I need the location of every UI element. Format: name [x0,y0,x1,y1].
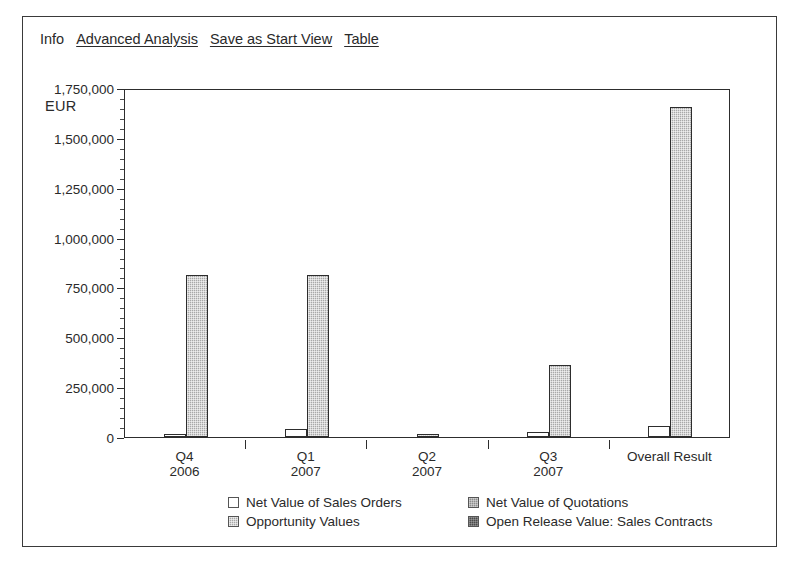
bar[interactable] [285,429,307,437]
legend-item-open-release-value-sales-contracts[interactable]: Open Release Value: Sales Contracts [468,512,728,531]
category-separator [366,440,367,449]
category-axis-label-line: Q2 [412,449,442,464]
category-axis-label: Q12007 [291,449,321,479]
y-axis-minor-tick [120,229,124,230]
plot-area [124,89,730,438]
legend-swatch-icon-darkgray [468,516,479,527]
y-axis-minor-tick [120,129,124,130]
category-axis-label: Q42006 [170,449,200,479]
y-axis-major-tick [117,338,124,339]
y-axis-minor-tick [120,408,124,409]
legend-label: Net Value of Quotations [486,495,628,510]
y-axis-minor-tick [120,328,124,329]
category-axis-label: Q22007 [412,449,442,479]
toolbar-item-info[interactable]: Info [40,31,64,47]
legend-item-opportunity-values[interactable]: Opportunity Values [228,512,460,531]
y-axis-minor-tick [120,179,124,180]
bar[interactable] [186,275,208,437]
y-axis-tick-label: 750,000 [65,281,114,296]
y-axis-unit-label: EUR [45,98,77,114]
legend-item-net-value-of-quotations[interactable]: Net Value of Quotations [468,493,728,512]
category-separator [488,440,489,449]
y-axis-minor-tick [120,308,124,309]
category-separator [245,440,246,449]
category-axis-label-line: Overall Result [627,449,712,464]
y-axis-minor-tick [120,298,124,299]
y-axis-minor-tick [120,318,124,319]
bar-group [125,275,246,437]
bar-group [367,434,488,437]
y-axis-major-tick [117,89,124,90]
y-axis-major-tick [117,438,124,439]
y-axis-minor-tick [120,418,124,419]
y-axis-tick-label: 500,000 [65,331,114,346]
y-axis-minor-tick [120,378,124,379]
y-axis-tick-label: 1,750,000 [54,82,114,97]
y-axis-minor-tick [120,398,124,399]
category-axis-label-line: Q1 [291,449,321,464]
chart-window: Info Advanced Analysis Save as Start Vie… [0,0,799,565]
y-axis-tick-label: 1,000,000 [54,231,114,246]
category-axis-label: Q32007 [533,449,563,479]
category-axis-label-line: Q3 [533,449,563,464]
y-axis-minor-tick [120,278,124,279]
y-axis-minor-tick [120,428,124,429]
category-axis-label-line: 2006 [170,464,200,479]
bar[interactable] [670,107,692,437]
y-axis-tick-label: 1,500,000 [54,131,114,146]
y-axis-minor-tick [120,249,124,250]
y-axis-major-tick [117,239,124,240]
y-axis-minor-tick [120,99,124,100]
y-axis-minor-tick [120,219,124,220]
legend-label: Net Value of Sales Orders [246,495,402,510]
category-axis-label-line: 2007 [533,464,563,479]
category-separator [609,440,610,449]
y-axis-minor-tick [120,348,124,349]
y-axis-tick-label: 0 [106,431,114,446]
y-axis-minor-tick [120,358,124,359]
y-axis-minor-tick [120,119,124,120]
toolbar-item-save-as-start-view[interactable]: Save as Start View [210,31,332,47]
legend-item-net-value-of-sales-orders[interactable]: Net Value of Sales Orders [228,493,460,512]
category-axis-label-line: Q4 [170,449,200,464]
y-axis-major-tick [117,139,124,140]
bar[interactable] [549,365,571,437]
bar[interactable] [527,432,549,437]
y-axis-minor-tick [120,268,124,269]
y-axis-major-tick [117,189,124,190]
legend-label: Open Release Value: Sales Contracts [486,514,712,529]
bar[interactable] [307,275,329,437]
bar[interactable] [648,426,670,437]
y-axis-minor-tick [120,209,124,210]
toolbar-item-table[interactable]: Table [344,31,379,47]
bar-group [610,107,731,437]
y-axis-minor-tick [120,199,124,200]
y-axis-tick-label: 1,250,000 [54,181,114,196]
y-axis-minor-tick [120,109,124,110]
legend-label: Opportunity Values [246,514,360,529]
bar-group [246,275,367,437]
y-axis-major-tick [117,388,124,389]
y-axis-tick-label: 250,000 [65,381,114,396]
bar[interactable] [164,434,186,437]
y-axis-minor-tick [120,159,124,160]
legend-swatch-icon-lightgray [228,516,239,527]
category-axis-label-line: 2007 [291,464,321,479]
y-axis-minor-tick [120,149,124,150]
legend-swatch-icon-midgray [468,497,479,508]
chart-toolbar: Info Advanced Analysis Save as Start Vie… [40,31,379,51]
y-axis-minor-tick [120,259,124,260]
y-axis-major-tick [117,288,124,289]
bar-group [489,365,610,437]
y-axis-minor-tick [120,169,124,170]
bar[interactable] [417,434,439,437]
category-axis-label: Overall Result [627,449,712,464]
y-axis-minor-tick [120,368,124,369]
chart-legend: Net Value of Sales Orders Net Value of Q… [228,493,728,531]
legend-swatch-icon-white [228,497,239,508]
toolbar-item-advanced-analysis[interactable]: Advanced Analysis [76,31,198,47]
category-axis-label-line: 2007 [412,464,442,479]
